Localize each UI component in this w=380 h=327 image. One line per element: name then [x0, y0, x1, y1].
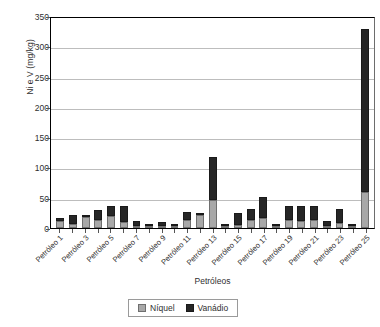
bar-segment-niquel[interactable]	[69, 224, 77, 228]
bar-segment-niquel[interactable]	[259, 218, 267, 228]
bar-segment-vanadio[interactable]	[297, 206, 305, 221]
bar-group[interactable]	[232, 18, 245, 228]
v-swatch-icon	[186, 304, 194, 312]
bar-segment-niquel[interactable]	[310, 220, 318, 228]
bar-group[interactable]	[92, 18, 105, 228]
bar-stack[interactable]	[259, 197, 267, 228]
bar-group[interactable]	[168, 18, 181, 228]
x-axis-tick-mark	[276, 229, 277, 233]
bar-group[interactable]	[67, 18, 80, 228]
x-axis-tick-mark	[238, 229, 239, 233]
bar-segment-vanadio[interactable]	[247, 209, 255, 219]
bar-group[interactable]	[105, 18, 118, 228]
bar-stack[interactable]	[183, 212, 191, 228]
bar-group[interactable]	[143, 18, 156, 228]
bar-segment-niquel[interactable]	[94, 220, 102, 228]
bar-group[interactable]	[333, 18, 346, 228]
legend-item-vanadio: Vanádio	[186, 303, 229, 313]
x-axis-tick-mark	[315, 229, 316, 233]
bar-stack[interactable]	[323, 221, 331, 228]
bar-segment-niquel[interactable]	[107, 216, 115, 228]
bar-group[interactable]	[79, 18, 92, 228]
bar-segment-vanadio[interactable]	[107, 206, 115, 216]
bar-segment-niquel[interactable]	[183, 220, 191, 228]
bar-stack[interactable]	[196, 213, 204, 228]
bar-segment-niquel[interactable]	[247, 220, 255, 228]
bar-stack[interactable]	[82, 215, 90, 228]
bar-group[interactable]	[282, 18, 295, 228]
bar-group[interactable]	[295, 18, 308, 228]
bar-group[interactable]	[346, 18, 359, 228]
bar-group[interactable]	[359, 18, 372, 228]
bar-stack[interactable]	[107, 206, 115, 228]
bar-segment-niquel[interactable]	[323, 226, 331, 228]
bar-segment-niquel[interactable]	[133, 226, 141, 228]
bar-stack[interactable]	[297, 206, 305, 228]
bar-stack[interactable]	[56, 218, 64, 228]
bar-group[interactable]	[194, 18, 207, 228]
bar-segment-vanadio[interactable]	[285, 206, 293, 220]
bar-stack[interactable]	[120, 206, 128, 228]
bar-stack[interactable]	[209, 157, 217, 228]
bar-segment-niquel[interactable]	[209, 200, 217, 228]
bar-segment-vanadio[interactable]	[209, 157, 217, 200]
bar-group[interactable]	[308, 18, 321, 228]
bar-segment-niquel[interactable]	[297, 221, 305, 228]
bar-segment-vanadio[interactable]	[120, 206, 128, 222]
bar-segment-niquel[interactable]	[234, 225, 242, 228]
bar-group[interactable]	[270, 18, 283, 228]
bar-stack[interactable]	[336, 209, 344, 228]
bar-segment-niquel[interactable]	[348, 226, 356, 228]
bar-group[interactable]	[181, 18, 194, 228]
bar-segment-vanadio[interactable]	[361, 29, 369, 191]
bar-segment-niquel[interactable]	[82, 217, 90, 228]
bar-segment-vanadio[interactable]	[234, 213, 242, 225]
bar-group[interactable]	[257, 18, 270, 228]
bar-stack[interactable]	[145, 224, 153, 228]
x-axis-tick-mark	[251, 229, 252, 233]
bar-segment-niquel[interactable]	[158, 226, 166, 228]
x-axis-tick-mark	[110, 229, 111, 233]
bar-stack[interactable]	[133, 221, 141, 228]
bar-stack[interactable]	[348, 224, 356, 228]
bar-stack[interactable]	[361, 29, 369, 228]
bar-group[interactable]	[244, 18, 257, 228]
bar-group[interactable]	[320, 18, 333, 228]
bar-stack[interactable]	[272, 224, 280, 228]
bar-segment-niquel[interactable]	[56, 221, 64, 228]
bar-group[interactable]	[206, 18, 219, 228]
bar-stack[interactable]	[310, 206, 318, 228]
bar-segment-niquel[interactable]	[145, 226, 153, 228]
bar-stack[interactable]	[221, 224, 229, 228]
bar-segment-vanadio[interactable]	[94, 210, 102, 220]
bar-segment-vanadio[interactable]	[69, 215, 77, 223]
x-axis-tick-mark	[264, 229, 265, 233]
bar-group[interactable]	[54, 18, 67, 228]
bar-segment-vanadio[interactable]	[336, 209, 344, 223]
bar-segment-niquel[interactable]	[272, 226, 280, 228]
bar-segment-niquel[interactable]	[361, 192, 369, 228]
x-axis-tick-mark	[162, 229, 163, 233]
bar-group[interactable]	[219, 18, 232, 228]
bar-segment-vanadio[interactable]	[310, 206, 318, 220]
bar-stack[interactable]	[158, 222, 166, 228]
bar-stack[interactable]	[94, 210, 102, 228]
bar-segment-niquel[interactable]	[221, 226, 229, 228]
bar-segment-niquel[interactable]	[196, 215, 204, 228]
bar-segment-vanadio[interactable]	[259, 197, 267, 218]
bar-stack[interactable]	[285, 206, 293, 228]
bar-group[interactable]	[117, 18, 130, 228]
bar-group[interactable]	[156, 18, 169, 228]
x-axis-tick-mark	[149, 229, 150, 233]
bar-stack[interactable]	[247, 209, 255, 228]
bar-segment-niquel[interactable]	[171, 226, 179, 228]
bar-segment-vanadio[interactable]	[183, 212, 191, 220]
bar-stack[interactable]	[69, 215, 77, 228]
bar-group[interactable]	[130, 18, 143, 228]
bar-segment-niquel[interactable]	[285, 220, 293, 228]
bar-segment-niquel[interactable]	[120, 222, 128, 228]
bar-segment-niquel[interactable]	[336, 223, 344, 228]
x-axis-tick-mark	[302, 229, 303, 233]
bar-stack[interactable]	[171, 224, 179, 228]
bar-stack[interactable]	[234, 213, 242, 228]
